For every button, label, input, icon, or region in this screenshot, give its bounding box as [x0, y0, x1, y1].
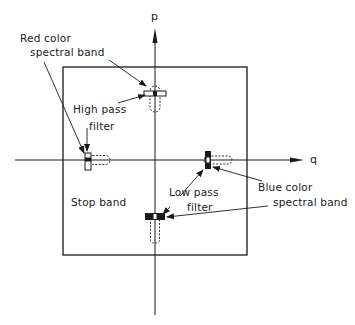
high-pass-label-line2: filter	[89, 120, 115, 132]
high-pass-filter-left	[85, 153, 110, 170]
stop-band-label: Stop band	[71, 196, 126, 208]
q-axis-arrow-icon	[290, 158, 304, 163]
high-pass-label-line1: High pass	[73, 103, 126, 115]
red-band-label-line1: Red color	[20, 32, 71, 44]
red-band-label-line2: spectral band	[30, 46, 105, 58]
q-axis	[15, 158, 304, 163]
p-axis-label: p	[151, 11, 158, 23]
p-axis	[153, 28, 158, 315]
blue-band-label-line1: Blue color	[258, 181, 312, 193]
blue-band-label-line2: spectral band	[273, 196, 348, 208]
p-axis-arrow-icon	[153, 28, 158, 43]
low-pass-label-line2: filter	[187, 201, 213, 213]
q-axis-label: q	[310, 154, 317, 166]
leader-lines	[44, 60, 268, 217]
low-pass-label-line1: Low pass	[169, 186, 219, 198]
